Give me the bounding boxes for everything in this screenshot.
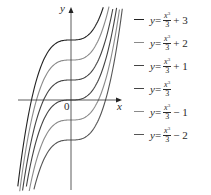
legend-equation: y = x33− 1 xyxy=(150,102,188,121)
legend-swatch xyxy=(134,19,144,20)
legend-item: y = x33+ 3 xyxy=(134,8,211,31)
plot-area xyxy=(0,0,125,195)
legend-equation: y = x33− 2 xyxy=(150,125,188,144)
x-axis-label: x xyxy=(117,100,122,112)
curve-family xyxy=(18,7,123,192)
y-axis-arrow-icon xyxy=(69,7,74,13)
curve-3 xyxy=(26,8,116,187)
legend-swatch xyxy=(134,88,144,89)
legend-equation: y = x33+ 1 xyxy=(150,56,188,75)
legend-equation: y = x33+ 2 xyxy=(150,33,188,52)
legend-item: y = x33 xyxy=(134,77,211,100)
legend-swatch xyxy=(134,65,144,66)
legend-equation: y = x33+ 3 xyxy=(150,10,188,29)
legend-item: y = x33+ 2 xyxy=(134,31,211,54)
legend-swatch xyxy=(134,111,144,112)
legend: y = x33+ 3y = x33+ 2y = x33+ 1y = x33y =… xyxy=(134,8,211,146)
legend-swatch xyxy=(134,134,144,135)
curve-1 xyxy=(20,7,109,192)
legend-item: y = x33− 1 xyxy=(134,100,211,123)
origin-label: 0 xyxy=(64,100,70,112)
legend-swatch xyxy=(134,42,144,43)
legend-item: y = x33+ 1 xyxy=(134,54,211,77)
legend-item: y = x33− 2 xyxy=(134,123,211,146)
curve-0 xyxy=(18,7,104,186)
legend-equation: y = x33 xyxy=(150,79,173,98)
y-axis-label: y xyxy=(60,2,65,14)
